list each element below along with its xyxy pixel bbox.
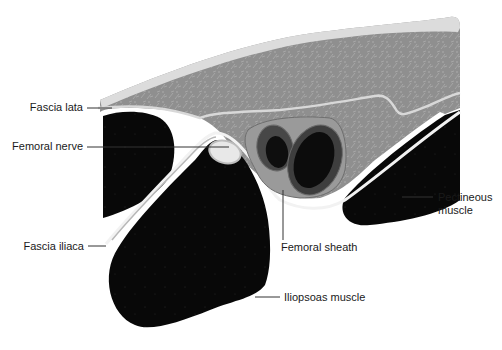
label-iliopsoas-muscle: Iliopsoas muscle bbox=[284, 291, 365, 304]
femoral-region-diagram: Fascia lata Femoral nerve Fascia iliaca … bbox=[0, 0, 502, 350]
label-pectineous-line1: Pectineous bbox=[438, 191, 492, 204]
label-pectineous-muscle: Pectineous muscle bbox=[438, 191, 492, 217]
label-fascia-iliaca: Fascia iliaca bbox=[23, 240, 84, 253]
label-femoral-nerve: Femoral nerve bbox=[12, 140, 83, 153]
label-fascia-lata: Fascia lata bbox=[30, 101, 83, 114]
anatomy-illustration bbox=[0, 0, 502, 350]
label-femoral-sheath: Femoral sheath bbox=[281, 241, 357, 254]
label-pectineous-line2: muscle bbox=[438, 204, 492, 217]
